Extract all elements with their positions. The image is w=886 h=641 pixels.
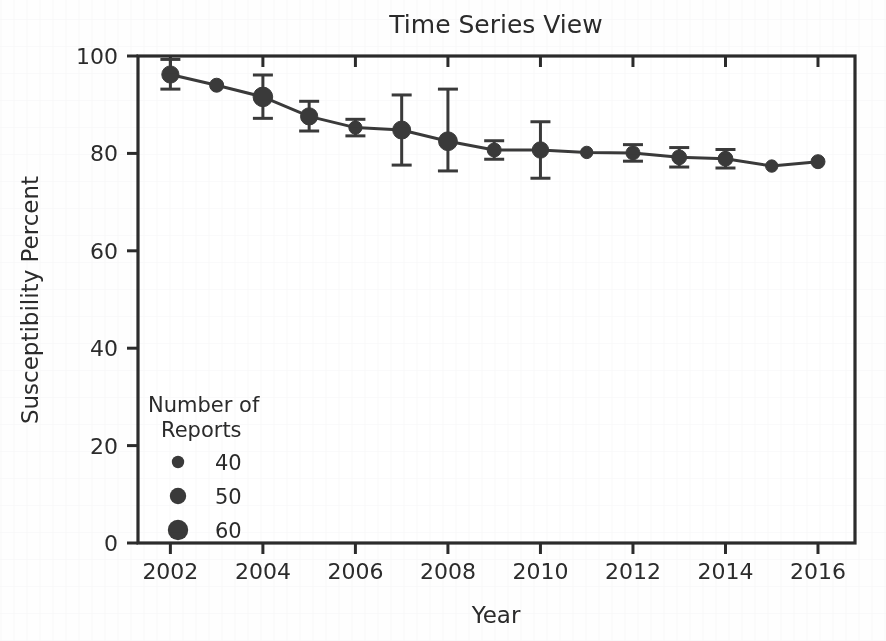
data-point-marker [487, 143, 501, 157]
legend-marker [170, 488, 186, 504]
y-axis-label: Susceptibility Percent [17, 176, 43, 424]
x-tick-label: 2014 [697, 559, 753, 584]
data-point-marker [626, 146, 640, 160]
data-point-marker [718, 151, 733, 166]
x-axis-label: Year [471, 602, 521, 628]
y-tick-label: 60 [90, 239, 118, 264]
x-tick-label: 2012 [605, 559, 661, 584]
y-tick-label: 40 [90, 336, 118, 361]
legend-label: 50 [215, 485, 242, 509]
chart-title: Time Series View [388, 10, 602, 39]
data-point-marker [162, 66, 179, 83]
data-point-marker [532, 142, 548, 158]
data-point-marker [253, 87, 273, 107]
x-tick-label: 2004 [235, 559, 291, 584]
data-point-marker [672, 150, 687, 165]
y-tick-label: 0 [104, 531, 118, 556]
data-point-marker [581, 146, 593, 158]
y-tick-label: 80 [90, 141, 118, 166]
x-tick-label: 2006 [327, 559, 383, 584]
data-point-marker [811, 155, 825, 169]
time-series-chart: Time Series View 020406080100 2002200420… [0, 0, 886, 641]
time-series-chart-figure: Time Series View 020406080100 2002200420… [0, 0, 886, 641]
x-tick-label: 2008 [420, 559, 476, 584]
data-point-marker [349, 121, 362, 134]
data-point-marker [210, 78, 224, 92]
x-tick-label: 2010 [512, 559, 568, 584]
data-point-marker [393, 121, 411, 139]
plot-area-background [138, 56, 855, 543]
y-tick-label: 20 [90, 434, 118, 459]
x-tick-label: 2002 [142, 559, 198, 584]
data-point-marker [439, 132, 458, 151]
y-tick-label: 100 [76, 44, 118, 69]
x-tick-label: 2016 [790, 559, 846, 584]
data-point-marker [301, 108, 318, 125]
legend-title-line1: Number of [148, 393, 260, 417]
y-axis-ticks: 020406080100 [76, 44, 138, 556]
legend-label: 40 [215, 451, 242, 475]
legend-marker [168, 520, 188, 540]
legend-label: 60 [215, 519, 242, 543]
legend-title-line2: Reports [161, 418, 242, 442]
data-point-marker [766, 160, 778, 172]
legend-marker [172, 456, 184, 468]
